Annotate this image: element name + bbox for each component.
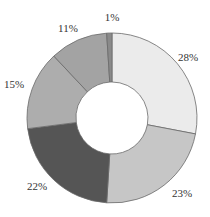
data-label-1: 1%: [105, 11, 120, 23]
donut-slice: [112, 33, 197, 134]
data-label-22: 22%: [27, 180, 47, 192]
data-label-11: 11%: [58, 22, 78, 34]
data-label-28: 28%: [178, 51, 198, 63]
data-label-15: 15%: [4, 78, 24, 90]
data-label-23: 23%: [172, 187, 192, 199]
